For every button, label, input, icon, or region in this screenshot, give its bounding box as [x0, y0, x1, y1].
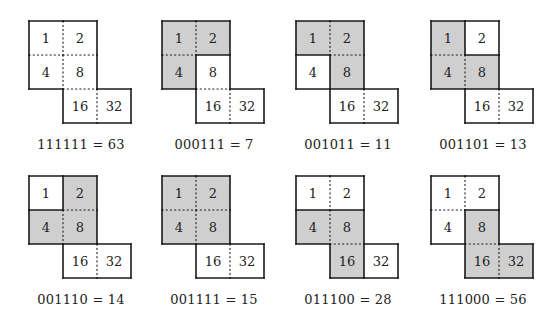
cell-label: 16 [205, 99, 222, 114]
cell-label: 8 [209, 65, 217, 80]
cell-label: 8 [76, 65, 84, 80]
cell-label: 16 [339, 99, 356, 114]
panel-56: 12481632 111000 = 56 [431, 176, 541, 319]
panel-caption: 001101 = 13 [413, 137, 553, 152]
cell-label: 2 [478, 31, 486, 46]
panel-7: 12481632 000111 = 7 [162, 21, 272, 171]
cell-label: 8 [478, 65, 486, 80]
cell-label: 32 [239, 254, 256, 269]
cell-label: 1 [309, 31, 317, 46]
cell-label: 32 [106, 99, 123, 114]
cell-label: 8 [209, 220, 217, 235]
cell-label: 1 [175, 186, 183, 201]
cell-label: 1 [42, 186, 50, 201]
panel-caption: 011100 = 28 [278, 292, 418, 307]
cell-label: 8 [343, 65, 351, 80]
cell-label: 4 [444, 220, 452, 235]
panel-14: 12481632 001110 = 14 [29, 176, 139, 319]
cell-label: 8 [76, 220, 84, 235]
panel-15: 12481632 001111 = 15 [162, 176, 272, 319]
panel-13: 12481632 001101 = 13 [431, 21, 541, 171]
cell-label: 1 [444, 186, 452, 201]
cell-label: 2 [343, 31, 351, 46]
cell-grid: 12481632 [29, 176, 139, 286]
cell-label: 4 [444, 65, 452, 80]
cell-grid: 12481632 [431, 176, 541, 286]
cell-grid: 12481632 [296, 21, 406, 131]
cell-grid: 12481632 [162, 176, 272, 286]
cell-label: 8 [478, 220, 486, 235]
cell-label: 4 [309, 65, 317, 80]
cell-label: 16 [339, 254, 356, 269]
cell-label: 2 [76, 31, 84, 46]
cell-label: 16 [72, 99, 89, 114]
cell-label: 4 [175, 65, 183, 80]
cell-label: 16 [474, 254, 491, 269]
cell-label: 1 [42, 31, 50, 46]
cell-label: 2 [478, 186, 486, 201]
cell-label: 16 [72, 254, 89, 269]
cell-label: 32 [106, 254, 123, 269]
cell-label: 32 [239, 99, 256, 114]
cell-label: 2 [343, 186, 351, 201]
cell-label: 4 [175, 220, 183, 235]
cell-label: 4 [309, 220, 317, 235]
panel-63: 12481632 111111 = 63 [29, 21, 139, 171]
cell-label: 2 [76, 186, 84, 201]
panel-caption: 000111 = 7 [144, 137, 284, 152]
cell-label: 1 [309, 186, 317, 201]
panel-caption: 111111 = 63 [11, 137, 151, 152]
cell-label: 32 [373, 99, 390, 114]
panel-caption: 001110 = 14 [11, 292, 151, 307]
cell-grid: 12481632 [431, 21, 541, 131]
cell-grid: 12481632 [296, 176, 406, 286]
cell-grid: 12481632 [162, 21, 272, 131]
panel-caption: 111000 = 56 [413, 292, 553, 307]
panel-caption: 001111 = 15 [144, 292, 284, 307]
cell-label: 32 [508, 99, 525, 114]
cell-label: 16 [474, 99, 491, 114]
cell-label: 4 [42, 65, 50, 80]
cell-label: 1 [175, 31, 183, 46]
cell-label: 32 [508, 254, 525, 269]
cell-grid: 12481632 [29, 21, 139, 131]
panel-28: 12481632 011100 = 28 [296, 176, 406, 319]
cell-label: 1 [444, 31, 452, 46]
panel-11: 12481632 001011 = 11 [296, 21, 406, 171]
cell-label: 8 [343, 220, 351, 235]
cell-label: 2 [209, 31, 217, 46]
cell-label: 32 [373, 254, 390, 269]
cell-label: 2 [209, 186, 217, 201]
cell-label: 16 [205, 254, 222, 269]
panel-caption: 001011 = 11 [278, 137, 418, 152]
cell-label: 4 [42, 220, 50, 235]
